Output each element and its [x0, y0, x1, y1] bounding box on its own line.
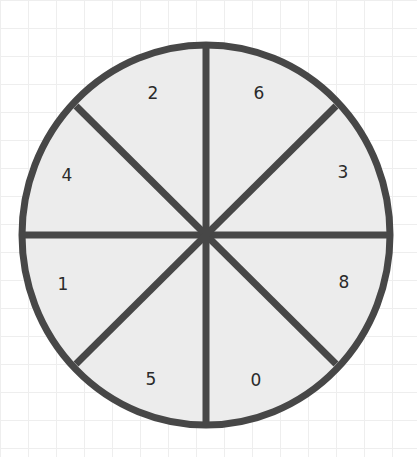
segment-label: 2 [148, 83, 159, 103]
segment-label: 4 [62, 165, 73, 185]
segment-label: 3 [338, 162, 349, 182]
segment-label: 6 [254, 83, 265, 103]
number-wheel: 6 3 8 0 5 1 4 2 [0, 0, 417, 457]
segment-label: 0 [251, 370, 262, 390]
segment-label: 8 [339, 272, 350, 292]
segment-label: 1 [58, 274, 69, 294]
segment-label: 5 [146, 369, 157, 389]
